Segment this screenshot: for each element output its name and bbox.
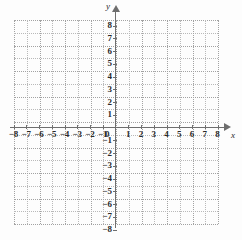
gridline-horizontal [14,186,218,187]
gridline-vertical [142,20,143,224]
y-axis-tick-label: 2 [98,98,112,107]
y-axis-tick [113,51,117,52]
y-axis-tick-label: −6 [98,200,112,209]
y-axis-tick [113,102,117,103]
x-axis-arrow-icon [224,123,231,131]
y-axis-tick-label: 5 [98,59,112,68]
y-axis-tick [113,115,117,116]
y-axis-tick-label: −5 [98,187,112,196]
gridline-vertical [154,20,155,224]
y-axis-tick-label: 1 [98,110,112,119]
y-axis-tick [113,26,117,27]
gridline-vertical [129,20,130,224]
gridline-horizontal [14,122,218,123]
y-axis-label: y [106,2,110,11]
y-axis-tick [113,204,117,205]
y-axis-tick-label: −8 [98,225,112,234]
y-axis-tick-label: −7 [98,212,112,221]
gridline-horizontal [14,148,218,149]
y-axis-tick [113,89,117,90]
coordinate-plane-figure: −8−7−6−5−4−3−2−11234567887654321−1−2−3−4… [0,0,242,240]
gridline-horizontal [14,211,218,212]
gridline-horizontal [14,224,218,225]
y-axis-tick-label: 7 [98,34,112,43]
gridline-vertical [180,20,181,224]
y-axis-tick-label: 3 [98,85,112,94]
gridline-horizontal [14,160,218,161]
y-axis-tick [113,38,117,39]
gridline-vertical [193,20,194,224]
x-axis-tick-label: 8 [211,130,225,139]
y-axis-tick-label: −2 [98,149,112,158]
y-axis-tick-label: −3 [98,161,112,170]
gridline-horizontal [14,199,218,200]
y-axis-arrow-icon [112,5,120,12]
gridline-vertical [167,20,168,224]
y-axis-tick [113,64,117,65]
x-axis-line [10,127,226,128]
y-axis-tick-label: 4 [98,72,112,81]
y-axis-tick [113,77,117,78]
y-axis-tick [113,217,117,218]
y-axis-line [115,12,116,228]
y-axis-tick-label: 6 [98,47,112,56]
y-axis-tick-label: 8 [98,21,112,30]
y-axis-tick [113,166,117,167]
y-axis-tick [113,179,117,180]
gridline-horizontal [14,173,218,174]
x-axis-label: x [231,131,235,140]
origin-label: 0 [105,130,110,139]
y-axis-tick [113,230,117,231]
gridline-vertical [205,20,206,224]
y-axis-tick [113,153,117,154]
y-axis-tick [113,140,117,141]
gridline-vertical [218,20,219,224]
y-axis-tick-label: −4 [98,174,112,183]
y-axis-tick [113,191,117,192]
